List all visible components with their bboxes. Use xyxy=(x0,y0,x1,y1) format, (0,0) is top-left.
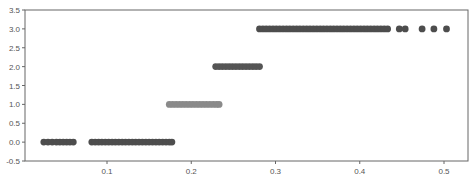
data-point xyxy=(70,139,77,146)
y-tick-label: 1.5 xyxy=(9,82,21,91)
series-class-3 xyxy=(256,26,450,33)
y-tick-label: 0.5 xyxy=(9,119,21,128)
x-tick-label: 0.1 xyxy=(101,167,113,176)
y-tick-label: 1.0 xyxy=(9,100,21,109)
data-point xyxy=(384,26,391,33)
series-class-0 xyxy=(40,139,175,146)
series-class-2 xyxy=(212,63,263,70)
data-point xyxy=(431,26,438,33)
x-tick-label: 0.2 xyxy=(186,167,198,176)
y-tick-label: 0.0 xyxy=(9,138,21,147)
y-tick-label: -0.5 xyxy=(6,157,20,166)
plot-area xyxy=(25,10,468,161)
data-point xyxy=(216,101,223,108)
y-tick-label: 2.5 xyxy=(9,44,21,53)
data-point xyxy=(256,63,263,70)
x-tick-label: 0.5 xyxy=(438,167,450,176)
data-point xyxy=(169,139,176,146)
series-class-1 xyxy=(166,101,223,108)
y-tick-label: 3.0 xyxy=(9,25,21,34)
y-axis: -0.50.00.51.01.52.02.53.03.5 xyxy=(6,6,25,166)
x-tick-label: 0.4 xyxy=(354,167,366,176)
x-axis: 0.10.20.30.40.5 xyxy=(101,161,450,176)
data-point xyxy=(402,26,409,33)
data-point xyxy=(443,26,450,33)
y-tick-label: 2.0 xyxy=(9,63,21,72)
scatter-chart: -0.50.00.51.01.52.02.53.03.5 0.10.20.30.… xyxy=(0,0,471,191)
data-point xyxy=(419,26,426,33)
y-tick-label: 3.5 xyxy=(9,6,21,15)
x-tick-label: 0.3 xyxy=(270,167,282,176)
data-point xyxy=(396,26,403,33)
